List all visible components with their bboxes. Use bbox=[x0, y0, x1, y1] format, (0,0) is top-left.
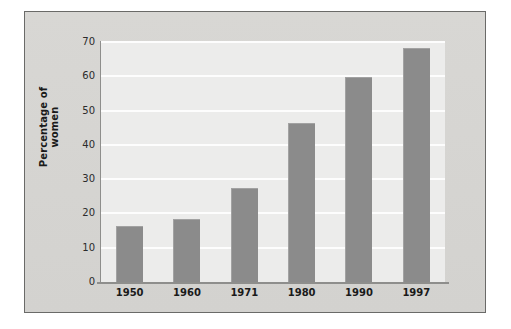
y-axis-tick-label: 60 bbox=[69, 71, 95, 81]
bar-1997 bbox=[403, 48, 430, 282]
x-axis-tick-labels: 195019601971198019901997 bbox=[101, 287, 445, 298]
bar-1990 bbox=[345, 77, 372, 282]
y-axis-title: Percentage of women bbox=[38, 67, 60, 187]
bar-slot bbox=[158, 42, 215, 282]
y-axis-tick-label: 10 bbox=[69, 243, 95, 253]
x-axis-tick-label: 1997 bbox=[388, 287, 445, 298]
x-axis-tick-label: 1971 bbox=[216, 287, 273, 298]
bar-1960 bbox=[173, 219, 200, 282]
bar-slot bbox=[216, 42, 273, 282]
x-axis-tick-label: 1990 bbox=[330, 287, 387, 298]
chart-figure-frame: Percentage of women 010203040506070 1950… bbox=[24, 11, 486, 313]
y-axis-tick-label: 30 bbox=[69, 174, 95, 184]
bar-slot bbox=[388, 42, 445, 282]
y-axis-tick-labels: 010203040506070 bbox=[67, 42, 95, 282]
y-axis-tick-label: 70 bbox=[69, 37, 95, 47]
bar-slot bbox=[101, 42, 158, 282]
x-axis-tick-label: 1960 bbox=[158, 287, 215, 298]
x-axis-tick-label: 1950 bbox=[101, 287, 158, 298]
y-axis-tick-label: 0 bbox=[69, 277, 95, 287]
y-axis-tick-label: 40 bbox=[69, 140, 95, 150]
bar-slot bbox=[330, 42, 387, 282]
plot-area bbox=[101, 42, 445, 282]
bar-1980 bbox=[288, 123, 315, 282]
bar-1971 bbox=[231, 188, 258, 282]
y-axis-tick-label: 50 bbox=[69, 106, 95, 116]
bar-slot bbox=[273, 42, 330, 282]
bar-series bbox=[101, 42, 445, 282]
x-axis-line bbox=[97, 282, 449, 284]
bar-1950 bbox=[116, 226, 143, 282]
y-axis-tick-label: 20 bbox=[69, 208, 95, 218]
x-axis-tick-label: 1980 bbox=[273, 287, 330, 298]
